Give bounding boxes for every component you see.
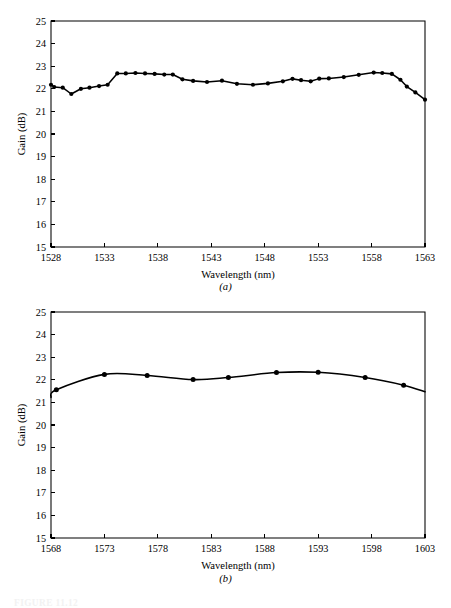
x-tick-label: 1588 bbox=[255, 543, 275, 554]
x-tick-label: 1568 bbox=[41, 543, 61, 554]
data-point-marker bbox=[309, 79, 313, 83]
data-point-marker bbox=[380, 71, 384, 75]
data-point-marker bbox=[317, 77, 321, 81]
y-tick-label: 23 bbox=[36, 352, 46, 363]
data-point-marker bbox=[61, 86, 65, 90]
y-tick-label: 17 bbox=[36, 487, 46, 498]
data-point-marker bbox=[299, 78, 303, 82]
x-tick-label: 1603 bbox=[415, 543, 435, 554]
data-point-marker bbox=[235, 82, 239, 86]
data-point-marker bbox=[191, 79, 195, 83]
data-point-marker bbox=[143, 71, 147, 75]
data-point-marker bbox=[266, 81, 270, 85]
data-point-marker bbox=[390, 72, 394, 76]
data-point-marker bbox=[357, 73, 361, 77]
x-tick-label: 1578 bbox=[148, 543, 168, 554]
data-point-marker bbox=[79, 87, 83, 91]
gain-spectrum-chart-a: 1516171819202122232425152815331538154315… bbox=[0, 0, 451, 300]
chart-panel-b: 1516171819202122232425156815731578158315… bbox=[0, 300, 451, 590]
data-point-marker bbox=[87, 86, 91, 90]
data-point-marker bbox=[398, 78, 402, 82]
y-tick-label: 20 bbox=[36, 420, 46, 431]
data-point-marker bbox=[274, 370, 279, 375]
data-point-marker bbox=[69, 92, 73, 96]
data-point-marker bbox=[115, 71, 119, 75]
data-point-marker bbox=[97, 84, 101, 88]
y-tick-label: 24 bbox=[36, 329, 46, 340]
y-tick-label: 21 bbox=[36, 397, 46, 408]
x-tick-label: 1583 bbox=[201, 543, 221, 554]
x-tick-label: 1533 bbox=[94, 252, 114, 263]
data-point-marker bbox=[281, 79, 285, 83]
x-tick-label: 1543 bbox=[201, 252, 221, 263]
data-point-marker bbox=[145, 373, 150, 378]
data-point-marker bbox=[290, 77, 294, 81]
gain-spectrum-chart-b: 1516171819202122232425156815731578158315… bbox=[0, 300, 451, 590]
y-tick-label: 22 bbox=[36, 374, 46, 385]
data-point-marker bbox=[191, 377, 196, 382]
data-point-marker bbox=[423, 98, 427, 102]
data-point-marker bbox=[327, 76, 331, 80]
x-tick-label: 1563 bbox=[415, 252, 435, 263]
data-point-marker bbox=[153, 72, 157, 76]
data-point-marker bbox=[52, 85, 56, 89]
y-tick-label: 22 bbox=[36, 83, 46, 94]
y-tick-label: 21 bbox=[36, 106, 46, 117]
x-tick-label: 1528 bbox=[41, 252, 61, 263]
y-tick-label: 18 bbox=[36, 465, 46, 476]
y-tick-label: 17 bbox=[36, 196, 46, 207]
y-axis-title: Gain (dB) bbox=[16, 403, 28, 446]
y-tick-label: 16 bbox=[36, 219, 46, 230]
data-point-marker bbox=[171, 72, 175, 76]
subcaption-a: (a) bbox=[0, 281, 451, 292]
data-point-marker bbox=[316, 370, 321, 375]
data-point-marker bbox=[124, 71, 128, 75]
y-tick-label: 18 bbox=[36, 174, 46, 185]
data-point-marker bbox=[220, 79, 224, 83]
chart-panel-a: 1516171819202122232425152815331538154315… bbox=[0, 0, 451, 300]
y-tick-label: 25 bbox=[36, 307, 46, 318]
data-point-marker bbox=[102, 372, 107, 377]
data-point-marker bbox=[180, 77, 184, 81]
y-tick-label: 20 bbox=[36, 129, 46, 140]
y-tick-label: 25 bbox=[36, 16, 46, 27]
y-tick-label: 16 bbox=[36, 510, 46, 521]
data-point-marker bbox=[205, 80, 209, 84]
x-axis-title: Wavelength (nm) bbox=[201, 269, 275, 281]
x-axis-title: Wavelength (nm) bbox=[201, 560, 275, 572]
data-point-marker bbox=[372, 70, 376, 74]
data-point-marker bbox=[342, 75, 346, 79]
data-point-marker bbox=[401, 383, 406, 388]
figure-caption: FIGURE 11.12 bbox=[14, 598, 78, 608]
data-point-marker bbox=[106, 83, 110, 87]
y-tick-label: 23 bbox=[36, 61, 46, 72]
data-point-marker bbox=[405, 84, 409, 88]
data-series-line bbox=[51, 372, 425, 398]
data-point-marker bbox=[363, 375, 368, 380]
y-tick-label: 19 bbox=[36, 151, 46, 162]
x-tick-label: 1558 bbox=[361, 252, 381, 263]
data-point-marker bbox=[413, 90, 417, 94]
y-tick-label: 24 bbox=[36, 38, 46, 49]
x-tick-label: 1548 bbox=[255, 252, 275, 263]
subcaption-b: (b) bbox=[0, 573, 451, 584]
y-axis-title: Gain (dB) bbox=[16, 112, 28, 155]
data-point-marker bbox=[162, 72, 166, 76]
y-tick-label: 19 bbox=[36, 442, 46, 453]
x-tick-label: 1553 bbox=[308, 252, 328, 263]
x-tick-label: 1538 bbox=[148, 252, 168, 263]
data-point-marker bbox=[54, 387, 59, 392]
data-point-marker bbox=[251, 83, 255, 87]
x-tick-label: 1598 bbox=[361, 543, 381, 554]
x-tick-label: 1573 bbox=[94, 543, 114, 554]
data-point-marker bbox=[226, 375, 231, 380]
x-tick-label: 1593 bbox=[308, 543, 328, 554]
data-point-marker bbox=[133, 71, 137, 75]
